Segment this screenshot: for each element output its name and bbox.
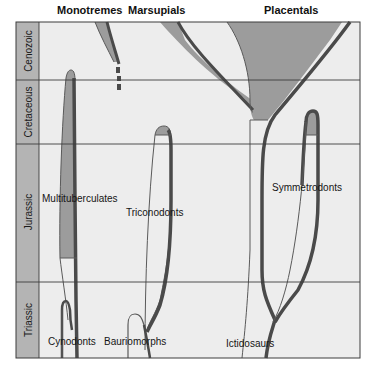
era-cretaceous-label: Cretaceous — [23, 86, 34, 137]
label-triconodonts: Triconodonts — [126, 207, 183, 218]
label-bauriomorphs: Bauriomorphs — [104, 336, 166, 347]
label-ictidosaurs: Ictidosaurs — [226, 338, 274, 349]
label-multituberculates: Multituberculates — [42, 193, 118, 204]
era-cenozoic-label: Cenozoic — [23, 30, 34, 72]
header-placentals: Placentals — [264, 4, 318, 16]
placentals-stem — [250, 120, 262, 144]
label-cynodonts: Cynodonts — [48, 336, 96, 347]
era-jurassic-label: Jurassic — [23, 194, 34, 231]
header-monotremes: Monotremes — [57, 4, 122, 16]
era-triassic-label: Triassic — [23, 303, 34, 337]
label-symmetrodonts: Symmetrodonts — [272, 182, 342, 193]
header-marsupials: Marsupials — [128, 4, 185, 16]
